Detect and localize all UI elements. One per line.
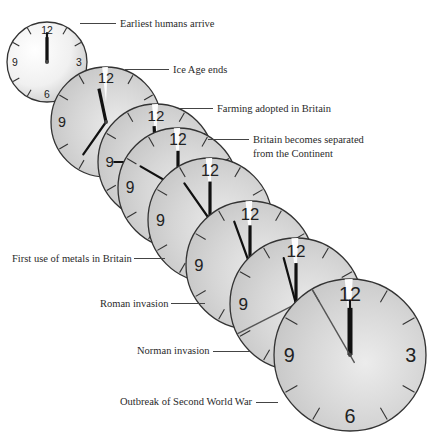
leader-line — [125, 69, 169, 70]
clock-numeral-twelve: 12 — [148, 107, 165, 124]
clock-numeral-nine: 9 — [284, 344, 295, 366]
clock-numeral-twelve: 12 — [241, 205, 260, 224]
event-label: Norman invasion — [137, 344, 210, 357]
clock-numeral-three: 3 — [76, 57, 82, 68]
clock-numeral-six: 6 — [345, 405, 356, 427]
leader-line — [80, 23, 116, 24]
event-label: Ice Age ends — [173, 63, 227, 76]
leader-line — [208, 139, 249, 140]
clock-numeral-nine: 9 — [194, 256, 203, 275]
clock-numeral-nine: 9 — [126, 179, 135, 196]
event-label: Britain becomes separated — [253, 133, 364, 146]
clock-numeral-nine: 9 — [238, 294, 248, 314]
clock-pivot — [45, 60, 49, 64]
event-label: Outbreak of Second World War — [120, 395, 252, 408]
clock-numeral-twelve: 12 — [201, 161, 219, 179]
clock-numeral-nine: 9 — [12, 57, 18, 68]
clock-pivot — [348, 353, 352, 357]
clock-numeral-twelve: 12 — [169, 131, 186, 148]
clock-numeral-twelve: 12 — [98, 70, 114, 86]
event-label: from the Continent — [253, 147, 333, 160]
clock-numeral-nine: 9 — [58, 114, 66, 130]
clock-face: 12369 — [274, 279, 426, 431]
clock-timeline-diagram: 1236912369123691236912369123691236912369… — [0, 0, 431, 439]
clock-numeral-twelve: 12 — [286, 241, 305, 261]
clock-numeral-six: 6 — [44, 89, 50, 100]
clock-numeral-nine: 9 — [156, 211, 165, 229]
leader-line — [134, 258, 165, 259]
leader-line — [171, 303, 205, 304]
clock-numeral-three: 3 — [405, 344, 416, 366]
event-label: Roman invasion — [100, 297, 169, 310]
event-label: Farming adopted in Britain — [217, 102, 331, 115]
leader-line — [180, 108, 213, 109]
event-label: First use of metals in Britain — [12, 252, 132, 265]
clock-pivot — [104, 120, 108, 124]
clock-numeral-nine: 9 — [105, 153, 113, 170]
leader-line — [213, 351, 250, 352]
leader-line — [256, 402, 278, 403]
event-label: Earliest humans arrive — [120, 17, 214, 30]
